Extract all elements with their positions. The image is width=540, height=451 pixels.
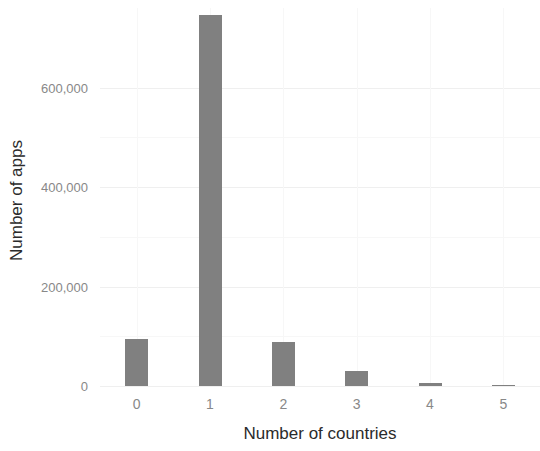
gridline-vertical	[357, 8, 358, 386]
y-axis-tick-labels: 0200,000400,000600,000	[0, 8, 92, 386]
bar	[272, 342, 295, 386]
x-axis-tick-labels: 012345	[100, 396, 540, 418]
y-axis-tick-label: 600,000	[41, 80, 88, 95]
x-axis-tick-label: 5	[499, 396, 507, 412]
x-axis-tick-label: 3	[353, 396, 361, 412]
y-axis-tick-label: 400,000	[41, 180, 88, 195]
gridline-vertical	[503, 8, 504, 386]
gridline-horizontal	[100, 88, 540, 89]
bar	[199, 15, 222, 386]
gridline-vertical	[430, 8, 431, 386]
x-axis-title: Number of countries	[100, 424, 540, 444]
gridline-vertical	[137, 8, 138, 386]
y-axis-tick-label: 0	[81, 379, 88, 394]
gridline-vertical	[283, 8, 284, 386]
x-axis-tick-label: 0	[133, 396, 141, 412]
x-axis-tick-label: 1	[206, 396, 214, 412]
gridline-horizontal-minor	[100, 237, 540, 238]
x-axis-tick-label: 4	[426, 396, 434, 412]
x-axis-tick-label: 2	[279, 396, 287, 412]
gridline-horizontal	[100, 386, 540, 387]
bar	[492, 385, 515, 386]
bar	[419, 383, 442, 386]
y-axis-tick-label: 200,000	[41, 279, 88, 294]
plot-area	[100, 8, 540, 386]
bar-chart: Number of apps 0200,000400,000600,000 01…	[0, 0, 540, 451]
gridline-horizontal-minor	[100, 137, 540, 138]
bar	[345, 371, 368, 386]
gridline-horizontal	[100, 287, 540, 288]
gridline-horizontal	[100, 187, 540, 188]
gridline-horizontal-minor	[100, 336, 540, 337]
bar	[125, 339, 148, 386]
